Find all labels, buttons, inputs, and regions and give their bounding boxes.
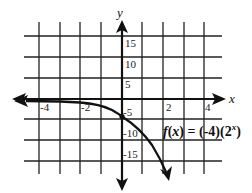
x-tick-label: 4 <box>205 101 211 113</box>
y-tick-label: -10 <box>123 127 138 139</box>
y-axis-label: y <box>115 5 123 20</box>
x-axis-label: x <box>228 91 235 106</box>
x-tick-label: 2 <box>166 101 172 113</box>
function-label: f(x) = (-4)(2x) <box>163 122 241 140</box>
y-tick-label: 15 <box>125 37 137 49</box>
y-tick-label: 5 <box>125 78 131 90</box>
x-tick-label: -4 <box>40 101 50 113</box>
function-curve <box>14 95 172 181</box>
y-tick-label: 10 <box>125 58 137 70</box>
y-tick-label: -15 <box>123 148 138 160</box>
curve-arrow-down-icon <box>160 166 172 181</box>
y-intercept-point <box>119 114 124 119</box>
function-graph: x y -4 -2 2 4 15 10 5 -5 -10 -15 f(x) = … <box>0 0 252 193</box>
